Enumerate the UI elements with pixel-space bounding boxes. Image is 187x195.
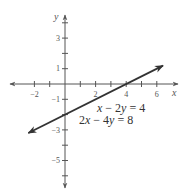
x-tick-label: 6 bbox=[155, 90, 159, 99]
x-axis-label: x bbox=[171, 87, 177, 98]
y-tick-label: −1 bbox=[51, 95, 60, 104]
y-tick-label: 3 bbox=[56, 34, 60, 43]
y-tick-label: −5 bbox=[51, 156, 60, 165]
equation-label-2: 2x − 4y = 8 bbox=[79, 113, 133, 127]
chart-canvas: −2 2 4 6 3 1 −1 −3 −5 x y x − 2y = 4 2x … bbox=[0, 0, 187, 195]
x-tick-label: −2 bbox=[30, 90, 39, 99]
y-tick-label: −3 bbox=[51, 126, 60, 135]
y-tick-label: 1 bbox=[56, 64, 60, 73]
x-tick-label: 4 bbox=[124, 90, 128, 99]
y-axis-label: y bbox=[53, 11, 59, 22]
